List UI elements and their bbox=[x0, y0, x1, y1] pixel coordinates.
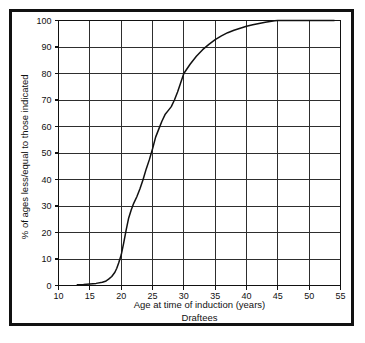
y-tick-label: 0 bbox=[20, 281, 52, 290]
y-axis-label: % of ages less/equal to those indicated bbox=[20, 52, 30, 262]
y-tick-label: 100 bbox=[20, 16, 52, 25]
chart-figure: 0102030405060708090100 10152025303540455… bbox=[0, 0, 365, 343]
gridlines bbox=[59, 21, 341, 286]
chart-subtitle: Draftees bbox=[58, 313, 341, 323]
x-axis-label: Age at time of induction (years) bbox=[58, 300, 341, 310]
y-tick-label: 90 bbox=[20, 43, 52, 52]
axis-ticks bbox=[55, 21, 341, 290]
